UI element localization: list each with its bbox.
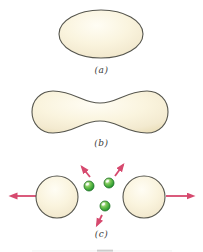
fission-diagram: (a) (b) (c) [0,0,203,252]
nucleus-dumbbell [32,91,168,133]
fragment-left [36,176,78,218]
diagram-canvas [0,0,203,252]
stage-b-label: (b) [0,138,203,149]
neutron-1 [84,181,94,191]
arrow-neutron-upright [115,165,123,176]
stage-b [32,91,168,133]
stage-c [11,165,193,225]
fragment-right [123,176,165,218]
neutron-2 [104,178,114,188]
neutron-3 [100,201,110,211]
arrow-neutron-upleft [82,167,90,177]
cropped-caption-remnant [32,250,172,252]
nucleus-oval [59,10,143,58]
stage-a-label: (a) [0,65,203,76]
stage-a [59,10,143,58]
stage-c-label: (c) [0,229,203,240]
arrow-neutron-down [97,215,102,225]
